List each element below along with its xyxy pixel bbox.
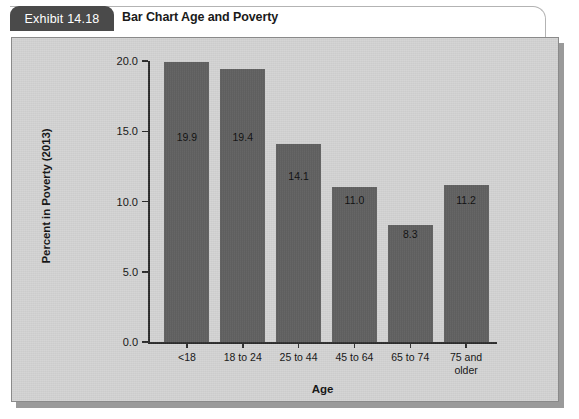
- x-tick-label: 45 to 64: [335, 351, 373, 364]
- y-tick-mark: [142, 60, 148, 62]
- bar-chart: Percent in Poverty (2013) 0.05.010.015.0…: [12, 38, 558, 401]
- bar: [332, 187, 377, 342]
- bar-value-label: 19.4: [233, 131, 253, 143]
- bar-value-label: 8.3: [403, 228, 418, 240]
- bar: [444, 185, 489, 342]
- y-tick-mark: [142, 131, 148, 133]
- x-tick-label: 75 and older: [450, 351, 482, 377]
- y-tick-label: 0.0: [98, 336, 138, 348]
- bar-value-label: 11.0: [345, 194, 365, 206]
- x-axis-line: [148, 342, 497, 344]
- y-tick-mark: [142, 271, 148, 273]
- bar: [388, 225, 433, 342]
- exhibit-panel: Percent in Poverty (2013) 0.05.010.015.0…: [11, 37, 559, 402]
- y-tick-mark: [142, 341, 148, 343]
- x-tick-label: <18: [178, 351, 196, 364]
- x-tick-mark: [465, 343, 467, 348]
- bar-value-label: 14.1: [288, 170, 308, 182]
- bar-value-label: 19.9: [177, 131, 197, 143]
- exhibit-number-label: Exhibit 14.18: [25, 12, 100, 26]
- y-axis-line: [148, 61, 150, 343]
- y-tick-label: 15.0: [98, 125, 138, 137]
- x-axis-title: Age: [148, 383, 497, 395]
- x-tick-mark: [354, 343, 356, 348]
- bar: [164, 62, 209, 342]
- bar-value-label: 11.2: [456, 194, 476, 206]
- exhibit-title: Bar Chart Age and Poverty: [122, 10, 278, 24]
- y-axis-title: Percent in Poverty (2013): [40, 96, 52, 296]
- x-tick-label: 25 to 44: [280, 351, 318, 364]
- exhibit-number-tab[interactable]: Exhibit 14.18: [10, 6, 114, 31]
- y-tick-label: 10.0: [98, 196, 138, 208]
- x-tick-mark: [186, 343, 188, 348]
- y-tick-label: 20.0: [98, 55, 138, 67]
- x-tick-label: 65 to 74: [391, 351, 429, 364]
- x-tick-mark: [298, 343, 300, 348]
- y-tick-label: 5.0: [98, 266, 138, 278]
- x-tick-label: 18 to 24: [224, 351, 262, 364]
- y-tick-mark: [142, 201, 148, 203]
- bar: [220, 69, 265, 342]
- x-tick-mark: [242, 343, 244, 348]
- x-tick-mark: [410, 343, 412, 348]
